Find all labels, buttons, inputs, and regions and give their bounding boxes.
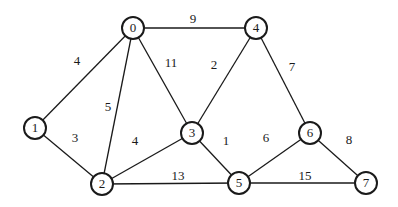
- edge-weight-label: 8: [346, 132, 353, 147]
- edge-weight-label: 13: [172, 168, 185, 183]
- edge-4-6: [256, 28, 310, 133]
- node-7: 7: [355, 172, 377, 194]
- edge-0-3: [133, 28, 192, 133]
- edge-4-3: [192, 28, 256, 133]
- node-label: 7: [363, 175, 370, 190]
- node-5: 5: [228, 172, 250, 194]
- graph-svg: 945112734168131501234567: [0, 0, 398, 207]
- node-label: 4: [253, 20, 260, 35]
- edge-weight-label: 7: [289, 59, 296, 74]
- edge-weight-label: 4: [74, 53, 81, 68]
- edge-weight-label: 5: [105, 99, 112, 114]
- edge-weight-label: 6: [263, 130, 270, 145]
- edge-0-1: [35, 28, 133, 128]
- node-1: 1: [24, 117, 46, 139]
- node-label: 6: [307, 125, 314, 140]
- edge-weight-label: 4: [132, 133, 139, 148]
- node-0: 0: [122, 17, 144, 39]
- node-label: 2: [99, 176, 106, 191]
- edge-weight-label: 11: [165, 55, 178, 70]
- edge-weight-label: 2: [211, 57, 218, 72]
- node-label: 1: [32, 120, 39, 135]
- node-6: 6: [299, 122, 321, 144]
- edge-2-5: [102, 183, 239, 184]
- node-label: 5: [236, 175, 243, 190]
- graph-diagram: 945112734168131501234567: [0, 0, 398, 207]
- edge-1-2: [35, 128, 102, 184]
- edge-weight-label: 1: [223, 133, 230, 148]
- node-label: 0: [130, 20, 137, 35]
- node-2: 2: [91, 173, 113, 195]
- edge-weight-label: 15: [299, 168, 312, 183]
- edge-weight-label: 3: [72, 130, 79, 145]
- edge-weight-label: 9: [190, 11, 197, 26]
- node-3: 3: [181, 122, 203, 144]
- node-label: 3: [189, 125, 196, 140]
- node-4: 4: [245, 17, 267, 39]
